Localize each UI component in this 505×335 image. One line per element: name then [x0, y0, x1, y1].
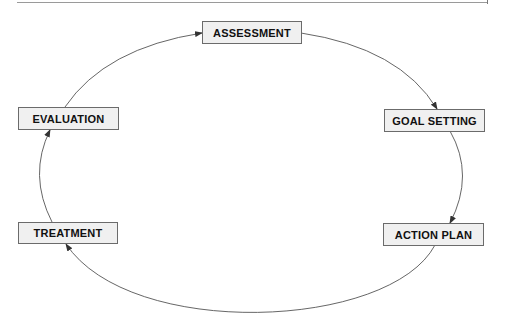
- edge-assessment-to-goal-setting: [301, 33, 437, 109]
- edge-treatment-to-evaluation: [39, 130, 52, 222]
- cycle-edges: [0, 0, 505, 335]
- edge-goal-setting-to-action-plan: [450, 131, 463, 223]
- node-goal-setting: GOAL SETTING: [384, 109, 485, 132]
- edge-action-plan-to-treatment: [66, 244, 435, 312]
- node-action-plan: ACTION PLAN: [383, 223, 484, 246]
- node-evaluation: EVALUATION: [18, 107, 119, 130]
- node-assessment: ASSESSMENT: [202, 21, 302, 44]
- node-treatment: TREATMENT: [18, 222, 118, 244]
- edge-evaluation-to-assessment: [65, 33, 202, 107]
